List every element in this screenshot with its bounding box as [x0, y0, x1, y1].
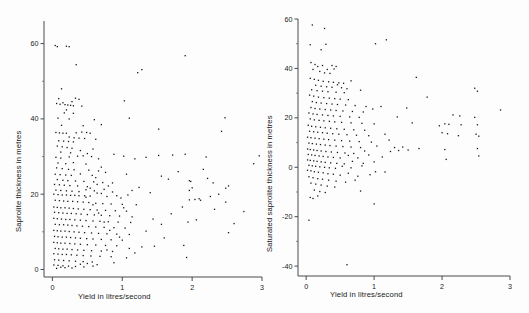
- x-axis-title-left: Yield in litres/second: [78, 292, 151, 301]
- data-point: [228, 185, 229, 186]
- data-point: [83, 155, 84, 156]
- data-point: [123, 207, 124, 208]
- data-point: [86, 238, 87, 239]
- data-point: [312, 101, 313, 102]
- data-point: [333, 82, 334, 83]
- data-point: [353, 153, 354, 154]
- data-point: [62, 133, 63, 134]
- data-point: [94, 119, 95, 120]
- data-point: [74, 195, 75, 196]
- data-point: [69, 46, 70, 47]
- data-point: [314, 64, 315, 65]
- data-point: [80, 244, 81, 245]
- data-point: [73, 141, 74, 142]
- data-point: [314, 189, 315, 190]
- data-point: [312, 177, 313, 178]
- data-point: [76, 213, 77, 214]
- data-point: [57, 242, 58, 243]
- data-point: [314, 108, 315, 109]
- data-point: [350, 146, 351, 147]
- data-point: [475, 134, 476, 135]
- data-point: [361, 123, 362, 124]
- data-point: [67, 104, 68, 105]
- data-point: [356, 135, 357, 136]
- data-point: [62, 102, 63, 103]
- data-point: [54, 184, 55, 185]
- data-points: [53, 45, 260, 269]
- data-point: [90, 209, 91, 210]
- data-point: [106, 233, 107, 234]
- data-point: [115, 210, 116, 211]
- data-point: [113, 154, 114, 155]
- data-point: [95, 203, 96, 204]
- data-point: [152, 218, 153, 219]
- data-point: [338, 82, 339, 83]
- data-point: [345, 104, 346, 105]
- data-point: [323, 120, 324, 121]
- data-point: [332, 133, 333, 134]
- data-point: [129, 248, 130, 249]
- data-point: [70, 152, 71, 153]
- data-point: [78, 191, 79, 192]
- data-point: [344, 152, 345, 153]
- data-point: [73, 208, 74, 209]
- data-point: [354, 105, 355, 106]
- data-point: [116, 245, 117, 246]
- data-point: [333, 157, 334, 158]
- data-point: [59, 184, 60, 185]
- data-point: [77, 156, 78, 157]
- scatter-panel-right: -40-2002040600123: [265, 0, 529, 313]
- data-point: [361, 165, 362, 166]
- scatter-plot-left-svg: 02040600123: [0, 0, 265, 313]
- data-point: [119, 215, 120, 216]
- data-point: [394, 147, 395, 148]
- data-point: [66, 236, 67, 237]
- data-point: [65, 219, 66, 220]
- data-point: [372, 108, 373, 109]
- data-point: [61, 88, 62, 89]
- data-point: [69, 231, 70, 232]
- data-point: [311, 126, 312, 127]
- data-point: [57, 179, 58, 180]
- data-point: [348, 155, 349, 156]
- data-point: [446, 159, 447, 160]
- data-point: [321, 49, 322, 50]
- data-point: [90, 195, 91, 196]
- data-point: [335, 145, 336, 146]
- data-point: [321, 86, 322, 87]
- data-point: [76, 64, 77, 65]
- y-tick-label: 0: [289, 163, 293, 172]
- scatter-plot-right-svg: -40-2002040600123: [265, 0, 529, 313]
- data-point: [317, 195, 318, 196]
- data-point: [346, 134, 347, 135]
- data-point: [77, 185, 78, 186]
- data-point: [77, 201, 78, 202]
- data-point: [323, 139, 324, 140]
- data-point: [106, 249, 107, 250]
- data-point: [67, 201, 68, 202]
- data-point: [69, 118, 70, 119]
- data-point: [330, 109, 331, 110]
- x-tick-label: 3: [260, 283, 264, 292]
- data-point: [312, 24, 313, 25]
- data-point: [354, 180, 355, 181]
- data-point: [58, 259, 59, 260]
- data-point: [57, 236, 58, 237]
- data-point: [122, 204, 123, 205]
- data-point: [64, 207, 65, 208]
- y-tick-label: 40: [285, 64, 293, 73]
- data-point: [75, 237, 76, 238]
- data-point: [322, 114, 323, 115]
- data-point: [62, 194, 63, 195]
- data-point: [318, 155, 319, 156]
- data-point: [349, 140, 350, 141]
- data-point: [81, 105, 82, 106]
- data-point: [196, 219, 197, 220]
- data-point: [99, 256, 100, 257]
- data-point: [141, 69, 142, 70]
- data-point: [126, 257, 127, 258]
- data-point: [91, 250, 92, 251]
- data-point: [64, 185, 65, 186]
- data-point: [103, 221, 104, 222]
- data-point: [83, 255, 84, 256]
